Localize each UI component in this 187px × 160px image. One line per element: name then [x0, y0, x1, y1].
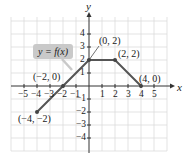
label-point-4-0: (4, 0): [139, 74, 161, 84]
y-tick-m3: −3: [76, 120, 86, 130]
function-callout: y = f(x): [33, 44, 73, 59]
x-tick-2: 2: [113, 90, 118, 100]
label-point-m4-m2: (−4, −2): [18, 114, 51, 124]
y-tick-m4: −4: [76, 133, 86, 143]
y-axis-arrow-icon: [87, 12, 92, 17]
y-tick-m1: −1: [76, 94, 86, 104]
y-tick-2: 2: [80, 55, 85, 65]
label-point-0-2: (0, 2): [99, 36, 121, 46]
x-tick-1: 1: [100, 90, 105, 100]
point-2-2: [113, 58, 117, 62]
y-tick-3: 3: [80, 42, 85, 52]
y-tick-1: 1: [80, 68, 85, 78]
x-tick-3: 3: [126, 90, 131, 100]
x-tick-4: 4: [139, 90, 144, 100]
callout-pointer: [62, 59, 72, 70]
x-tick-m5: −5: [18, 90, 28, 100]
y-tick-4: 4: [80, 29, 85, 39]
x-axis-arrow-icon: [170, 84, 175, 89]
x-tick-m3: −3: [44, 90, 54, 100]
axes: [11, 17, 170, 153]
y-axis-label: y: [86, 1, 91, 12]
label-point-2-2: (2, 2): [118, 49, 140, 59]
x-tick-m4: −4: [31, 90, 41, 100]
label-point-m2-0: (−2, 0): [33, 72, 60, 82]
x-tick-m2: −2: [57, 90, 67, 100]
y-tick-m2: −2: [76, 107, 86, 117]
x-tick-5: 5: [152, 90, 157, 100]
x-axis-label: x: [177, 82, 182, 93]
point-0-2: [87, 58, 91, 62]
point-4-0: [139, 84, 143, 88]
point-m2-0: [61, 84, 65, 88]
leader-line: [89, 46, 99, 60]
